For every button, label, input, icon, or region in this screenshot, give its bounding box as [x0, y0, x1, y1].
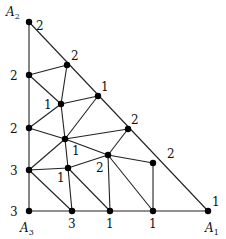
vertex-label: 2	[131, 113, 139, 127]
vertex-dot	[107, 208, 113, 214]
vertex-dot	[69, 208, 75, 214]
edge	[61, 104, 65, 139]
vertex-dot	[26, 19, 32, 25]
edge	[29, 168, 68, 170]
vertex-label: 1	[101, 80, 109, 94]
edge	[29, 170, 72, 211]
edge	[108, 155, 153, 211]
vertex-dot	[65, 165, 71, 171]
vertex-label: 1	[72, 144, 80, 158]
vertex-label: 2	[167, 147, 175, 161]
edge	[68, 168, 72, 211]
corner-label: A2	[5, 5, 20, 21]
edge	[61, 65, 67, 104]
vertex-dot	[205, 208, 211, 214]
vertex-label: 2	[36, 19, 44, 33]
vertex-dot	[26, 208, 32, 214]
vertex-dot	[58, 101, 64, 107]
vertex-label: 2	[96, 161, 104, 175]
edge	[65, 139, 68, 168]
vertex-label: 2	[10, 69, 18, 83]
corner-labels: A2A3A1	[5, 5, 219, 237]
vertex-labels: 22211212312233111	[10, 19, 220, 231]
vertex-label: 3	[10, 164, 18, 178]
edge	[65, 129, 128, 139]
vertex-label: 1	[212, 195, 220, 209]
vertex-dot	[64, 62, 70, 68]
vertex-label: 1	[106, 217, 114, 231]
edges	[29, 22, 208, 211]
vertex-label: 1	[57, 171, 65, 185]
edge	[108, 155, 153, 163]
vertex-dot	[62, 136, 68, 142]
edge	[29, 22, 208, 211]
vertex-dot	[26, 125, 32, 131]
edge	[29, 128, 65, 139]
corner-label: A1	[204, 221, 219, 237]
edge	[108, 129, 128, 155]
vertex-label: 3	[68, 217, 76, 231]
vertex-dot	[26, 72, 32, 78]
vertex-dot	[150, 208, 156, 214]
vertex-label: 1	[44, 98, 52, 112]
corner-label: A3	[19, 221, 34, 237]
edge	[29, 65, 67, 75]
edge	[68, 168, 110, 211]
sperner-triangulation: 22211212312233111 A2A3A1	[0, 0, 226, 239]
vertex-label: 2	[10, 122, 18, 136]
edge	[29, 139, 65, 170]
vertex-label: 2	[71, 49, 79, 63]
vertex-dot	[150, 160, 156, 166]
vertex-dot	[26, 167, 32, 173]
vertex-label: 1	[149, 217, 157, 231]
edge	[108, 155, 110, 211]
vertex-dot	[105, 152, 111, 158]
vertex-label: 3	[10, 205, 18, 219]
